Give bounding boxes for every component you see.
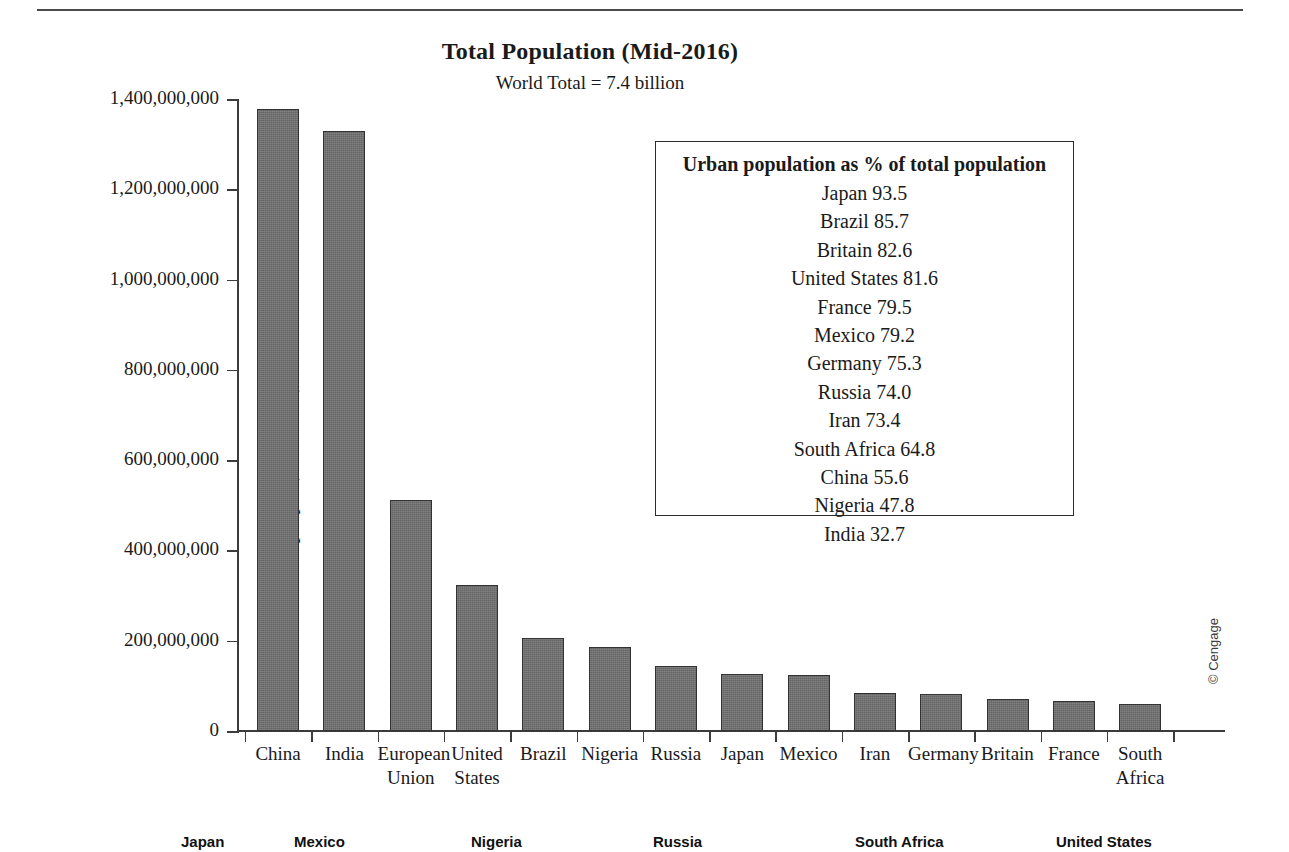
footer-country-strip: JapanMexicoNigeriaRussiaSouth AfricaUnit… bbox=[0, 833, 1289, 852]
y-axis-tick bbox=[227, 99, 239, 101]
x-axis-tick bbox=[378, 731, 380, 742]
x-axis-label-germany: Germany bbox=[908, 742, 974, 766]
bar-united-states bbox=[456, 585, 498, 731]
bar-mexico bbox=[788, 675, 830, 731]
x-axis-tick bbox=[1107, 731, 1109, 742]
footer-item-nigeria: Nigeria bbox=[471, 833, 522, 850]
footer-item-russia: Russia bbox=[653, 833, 702, 850]
x-axis-label-brazil: Brazil bbox=[510, 742, 576, 766]
footer-item-japan: Japan bbox=[181, 833, 224, 850]
top-divider-rule bbox=[37, 9, 1243, 11]
inset-row: Britain 82.6 bbox=[656, 236, 1073, 264]
inset-row: Nigeria 47.8 bbox=[656, 491, 1073, 519]
y-axis-tick bbox=[227, 550, 239, 552]
x-axis-label-european-union: European Union bbox=[378, 742, 444, 791]
x-axis-label-india: India bbox=[311, 742, 377, 766]
inset-title: Urban population as % of total populatio… bbox=[656, 150, 1073, 179]
y-axis-tick-label: 800,000,000 bbox=[124, 359, 219, 378]
x-axis-tick bbox=[1173, 731, 1175, 742]
x-axis-label-united-states: United States bbox=[444, 742, 510, 791]
x-axis-tick bbox=[908, 731, 910, 742]
y-axis-tick-label: 400,000,000 bbox=[124, 539, 219, 558]
y-axis-tick bbox=[227, 280, 239, 282]
y-axis-tick-label: 1,400,000,000 bbox=[110, 88, 219, 107]
inset-row: India 32.7 bbox=[656, 520, 1073, 548]
x-axis-tick bbox=[974, 731, 976, 742]
x-axis-label-china: China bbox=[245, 742, 311, 766]
x-axis-label-nigeria: Nigeria bbox=[577, 742, 643, 766]
bar-european-union bbox=[390, 500, 432, 731]
bar-germany bbox=[920, 694, 962, 731]
x-axis-tick bbox=[444, 731, 446, 742]
bar-britain bbox=[987, 699, 1029, 731]
inset-row: Japan 93.5 bbox=[656, 179, 1073, 207]
bar-iran bbox=[854, 693, 896, 731]
urban-population-inset: Urban population as % of total populatio… bbox=[655, 141, 1074, 516]
inset-row: Russia 74.0 bbox=[656, 378, 1073, 406]
x-axis-label-mexico: Mexico bbox=[775, 742, 841, 766]
bar-russia bbox=[655, 666, 697, 731]
y-axis-tick bbox=[227, 460, 239, 462]
y-axis-tick bbox=[227, 641, 239, 643]
bar-china bbox=[257, 109, 299, 731]
inset-row: Germany 75.3 bbox=[656, 349, 1073, 377]
inset-row: United States 81.6 bbox=[656, 264, 1073, 292]
x-axis-tick bbox=[775, 731, 777, 742]
x-axis-tick bbox=[709, 731, 711, 742]
bar-south-africa bbox=[1119, 704, 1161, 731]
y-axis-tick-label: 0 bbox=[210, 720, 220, 739]
x-axis-tick bbox=[842, 731, 844, 742]
inset-row: Iran 73.4 bbox=[656, 406, 1073, 434]
inset-row: Mexico 79.2 bbox=[656, 321, 1073, 349]
inset-row: China 55.6 bbox=[656, 463, 1073, 491]
x-axis-label-iran: Iran bbox=[842, 742, 908, 766]
bar-japan bbox=[721, 674, 763, 731]
x-axis-tick bbox=[577, 731, 579, 742]
x-axis-label-france: France bbox=[1041, 742, 1107, 766]
x-axis-tick bbox=[510, 731, 512, 742]
x-axis-label-russia: Russia bbox=[643, 742, 709, 766]
bar-brazil bbox=[522, 638, 564, 731]
footer-item-mexico: Mexico bbox=[294, 833, 345, 850]
bar-nigeria bbox=[589, 647, 631, 731]
y-axis-tick-label: 600,000,000 bbox=[124, 449, 219, 468]
y-axis-tick bbox=[227, 370, 239, 372]
bar-india bbox=[323, 131, 365, 731]
footer-item-united-states: United States bbox=[1056, 833, 1152, 850]
y-axis-tick-label: 200,000,000 bbox=[124, 630, 219, 649]
chart-title: Total Population (Mid-2016) bbox=[0, 38, 1180, 65]
x-axis-tick bbox=[1041, 731, 1043, 742]
inset-row: France 79.5 bbox=[656, 293, 1073, 321]
y-axis-tick bbox=[227, 189, 239, 191]
inset-row: South Africa 64.8 bbox=[656, 435, 1073, 463]
bar-france bbox=[1053, 701, 1095, 731]
inset-row: Brazil 85.7 bbox=[656, 207, 1073, 235]
copyright-credit: © Cengage bbox=[1206, 618, 1221, 684]
inset-rows: Japan 93.5Brazil 85.7Britain 82.6United … bbox=[656, 179, 1073, 548]
footer-item-south-africa: South Africa bbox=[855, 833, 944, 850]
x-axis-tick bbox=[245, 731, 247, 742]
x-axis-label-japan: Japan bbox=[709, 742, 775, 766]
y-axis-tick-label: 1,000,000,000 bbox=[110, 269, 219, 288]
y-axis-tick bbox=[227, 731, 239, 733]
y-axis-tick-label: 1,200,000,000 bbox=[110, 178, 219, 197]
x-axis-tick bbox=[311, 731, 313, 742]
x-axis-tick bbox=[643, 731, 645, 742]
x-axis-label-britain: Britain bbox=[974, 742, 1040, 766]
x-axis-label-south-africa: South Africa bbox=[1107, 742, 1173, 791]
